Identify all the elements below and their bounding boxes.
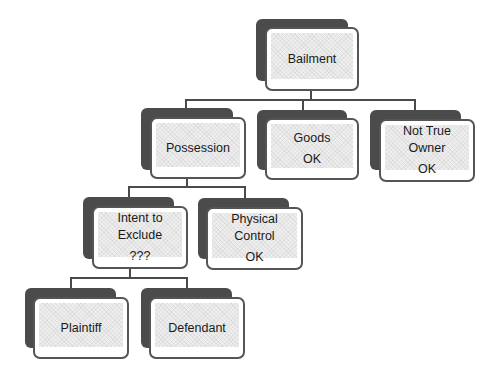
connector-to-goods — [302, 99, 304, 110]
connector-to-physical-control — [244, 186, 246, 198]
connector-level3-horizontal — [70, 277, 188, 279]
node-status: ??? — [130, 248, 151, 265]
node-label: Goods — [294, 130, 331, 147]
node-box: Defendant — [149, 297, 245, 359]
node-label-line1: Physical — [231, 211, 278, 228]
node-status: OK — [303, 151, 321, 168]
node-box: Not True Owner OK — [379, 119, 475, 182]
node-status: OK — [418, 161, 436, 178]
node-status: OK — [245, 249, 263, 266]
connector-level2-horizontal — [128, 186, 246, 188]
node-label: Possession — [166, 140, 230, 157]
node-label-line2: Exclude — [118, 227, 162, 244]
connector-to-defendant — [186, 277, 188, 288]
node-label-line1: Not True — [403, 123, 451, 140]
connector-to-plaintiff — [70, 277, 72, 288]
node-box: Intent to Exclude ??? — [92, 206, 188, 269]
node-label-line2: Control — [234, 228, 274, 245]
node-box: Physical Control OK — [206, 207, 303, 270]
node-label: Defendant — [168, 320, 226, 337]
node-box: Goods OK — [265, 118, 359, 180]
connector-to-not-true-owner — [414, 99, 416, 110]
node-box: Possession — [150, 117, 246, 179]
node-label: Plaintiff — [61, 320, 102, 337]
node-label: Bailment — [288, 51, 337, 68]
node-label-line1: Intent to — [117, 210, 162, 227]
node-box: Plaintiff — [33, 297, 129, 359]
connector-level1-horizontal — [185, 99, 416, 101]
node-box: Bailment — [265, 27, 359, 91]
node-label-line2: Owner — [409, 140, 446, 157]
